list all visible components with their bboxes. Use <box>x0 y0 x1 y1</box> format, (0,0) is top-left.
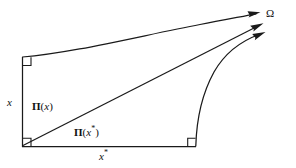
geometry-figure <box>0 0 296 168</box>
diagonal-characteristic-line <box>23 27 257 146</box>
diagram-canvas: Ω x Π(x) Π(x*) x* <box>0 0 296 168</box>
right-curve-arrowhead <box>252 32 265 40</box>
top-characteristic-curve <box>23 14 257 57</box>
x-star-label: x* <box>99 149 108 162</box>
right-angle-marker-top-left <box>23 57 31 65</box>
pi-of-x-star-label: Π(x*) <box>74 125 99 138</box>
top-curve-arrowhead <box>248 11 261 17</box>
pi-symbol: Π <box>74 126 83 138</box>
right-angle-marker-bottom-right <box>188 138 196 146</box>
star-superscript: * <box>104 148 108 157</box>
close-paren: ) <box>49 100 53 112</box>
right-characteristic-curve <box>196 35 259 147</box>
close-paren: ) <box>95 126 99 138</box>
pi-of-x-label: Π(x) <box>32 101 53 112</box>
pi-symbol: Π <box>32 100 41 112</box>
diagonal-arrowhead <box>250 23 263 31</box>
vertical-side-label: x <box>7 97 12 108</box>
omega-label: Ω <box>266 8 274 19</box>
